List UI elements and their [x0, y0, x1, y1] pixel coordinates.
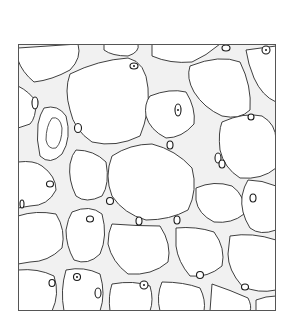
nucleus: [174, 216, 180, 224]
nucleus: [75, 124, 82, 133]
nucleus: [219, 160, 225, 168]
nucleus: [167, 141, 173, 149]
nucleus: [242, 284, 249, 290]
nucleus: [197, 272, 204, 279]
adipocyte: [66, 208, 105, 262]
nucleus: [95, 288, 101, 298]
nucleus: [49, 280, 55, 287]
nucleus: [248, 114, 254, 120]
nucleus: [136, 217, 142, 225]
adipose-tissue-figure: [0, 0, 293, 319]
nucleus: [87, 216, 94, 222]
nucleus: [32, 97, 38, 109]
nucleus: [107, 198, 114, 205]
nucleus: [20, 200, 24, 208]
nucleus: [47, 181, 54, 187]
nucleus: [250, 194, 256, 202]
nucleus: [222, 45, 230, 51]
adipocyte: [18, 270, 57, 311]
tissue-drawing: [0, 0, 293, 319]
